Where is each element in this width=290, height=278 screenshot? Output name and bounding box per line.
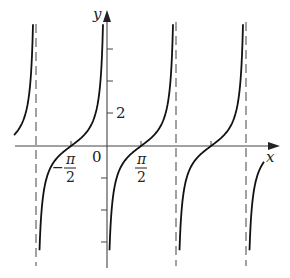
function-graph: y x 0 2 − π 2 π 2 <box>0 0 290 278</box>
numerator: π <box>65 151 76 167</box>
curve-branch-2 <box>110 24 174 250</box>
x-axis-label: x <box>266 148 275 166</box>
origin-label: 0 <box>92 148 102 166</box>
y-axis-arrow-icon <box>103 10 111 22</box>
denominator: 2 <box>137 169 146 185</box>
curve-branch-3 <box>180 24 244 250</box>
minus-sign: − <box>52 159 64 175</box>
curve-branch-left-partial <box>14 24 33 135</box>
x-tick-label-pi-over-2: π 2 <box>135 151 147 185</box>
curve-branches <box>14 24 264 250</box>
numerator: π <box>136 151 147 167</box>
x-tick-label-neg-pi-over-2: − π 2 <box>52 151 76 185</box>
y-tick-label-2: 2 <box>116 104 126 122</box>
curve-branch-right-partial <box>250 162 265 250</box>
y-axis-label: y <box>92 5 102 23</box>
curve-branch-1 <box>40 24 104 250</box>
denominator: 2 <box>66 169 75 185</box>
